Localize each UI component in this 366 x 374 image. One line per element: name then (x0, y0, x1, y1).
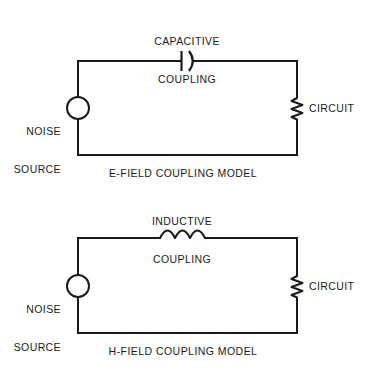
coupling-label-capacitive: CAPACITIVE COUPLING (154, 10, 220, 110)
noise-source-symbol (67, 275, 89, 297)
resistor-symbol (292, 96, 303, 121)
noise-source-label: NOISE SOURCE (14, 278, 61, 374)
noise-source-label-line2: SOURCE (14, 341, 61, 354)
circuit-load-label: CIRCUIT (309, 280, 354, 293)
noise-source-label-line1: NOISE (14, 303, 61, 316)
circuit-load-label: CIRCUIT (309, 102, 354, 115)
coupling-label-line2: COUPLING (154, 73, 220, 86)
coupling-label-inductive: INDUCTIVE COUPLING (152, 190, 212, 290)
coupling-label-line1: CAPACITIVE (154, 35, 220, 48)
noise-source-label-line2: SOURCE (14, 163, 61, 176)
coupling-label-line1: INDUCTIVE (152, 215, 212, 228)
resistor-symbol (292, 274, 303, 299)
noise-source-label: NOISE SOURCE (14, 100, 61, 200)
noise-source-label-line1: NOISE (14, 125, 61, 138)
diagram-caption-e-field: E-FIELD COUPLING MODEL (109, 167, 257, 179)
diagram-caption-h-field: H-FIELD COUPLING MODEL (109, 345, 258, 357)
noise-source-symbol (67, 97, 89, 119)
coupling-label-line2: COUPLING (152, 253, 212, 266)
h-field-coupling-diagram: INDUCTIVE COUPLING NOISE SOURCE CIRCUIT … (0, 187, 366, 374)
e-field-coupling-diagram: CAPACITIVE COUPLING NOISE SOURCE CIRCUIT… (0, 0, 366, 187)
coupling-models-figure: CAPACITIVE COUPLING NOISE SOURCE CIRCUIT… (0, 0, 366, 374)
